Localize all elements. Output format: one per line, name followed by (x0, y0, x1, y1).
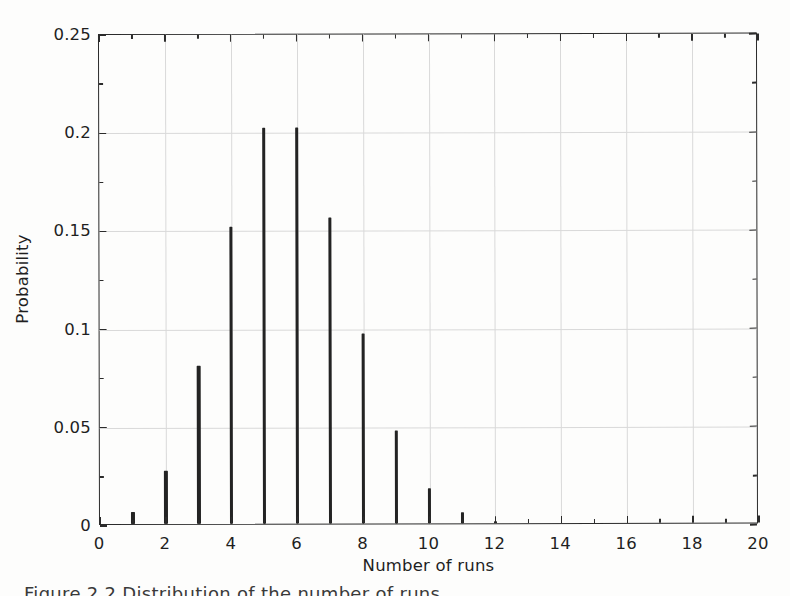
y-tick-minor (99, 83, 103, 84)
probability-distribution-figure: Probability Number of runs Figure 2.2 Di… (0, 0, 790, 596)
stem-bar (361, 334, 365, 524)
x-tick-minor-top (395, 34, 396, 38)
y-tick-major-right (750, 426, 757, 427)
figure-caption: Figure 2.2 Distribution of the number of… (24, 583, 440, 596)
x-tick-minor (330, 520, 331, 524)
x-tick-minor (396, 519, 397, 523)
y-tick-minor (99, 182, 103, 183)
x-tick-major (165, 517, 166, 524)
y-tick-label: 0.05 (53, 417, 91, 436)
y-tick-major-right (750, 524, 757, 525)
y-axis-label: Probability (13, 234, 32, 323)
x-tick-major-top (494, 34, 495, 41)
x-tick-major-top (691, 34, 692, 41)
x-tick-major (363, 516, 364, 523)
gridline-horizontal (99, 132, 756, 134)
x-tick-label: 16 (615, 534, 636, 553)
y-tick-major-right (749, 131, 756, 132)
y-tick-label: 0.2 (64, 123, 91, 142)
y-tick-minor-right (753, 475, 757, 476)
plot-frame (98, 33, 758, 525)
y-tick-minor (100, 378, 104, 379)
x-tick-label: 8 (357, 534, 368, 553)
stem-bar (328, 217, 332, 523)
y-tick-major-right (749, 33, 756, 34)
x-tick-label: 0 (94, 534, 105, 553)
gridline-vertical (494, 34, 496, 523)
y-tick-major (100, 329, 107, 330)
x-tick-label: 12 (484, 534, 505, 553)
y-tick-minor (100, 476, 104, 477)
x-tick-minor (264, 520, 265, 524)
y-tick-major-right (750, 328, 757, 329)
y-tick-major (100, 427, 107, 428)
y-tick-label: 0.15 (53, 221, 91, 240)
x-tick-minor-top (197, 35, 198, 39)
gridline-horizontal (100, 328, 757, 330)
y-tick-major (99, 231, 106, 232)
y-tick-major-right (749, 229, 756, 230)
x-tick-minor (725, 519, 726, 523)
x-tick-major-top (428, 34, 429, 41)
y-tick-major (100, 525, 107, 526)
x-tick-minor (462, 519, 463, 523)
plot-area (99, 34, 757, 524)
x-tick-major (561, 516, 562, 523)
x-tick-major (495, 516, 496, 523)
x-tick-minor (528, 519, 529, 523)
stem-bar (295, 128, 299, 524)
x-tick-major-top (296, 35, 297, 42)
x-tick-major-top (757, 34, 758, 41)
gridline-vertical (560, 34, 562, 523)
x-tick-major (99, 517, 100, 524)
x-tick-minor-top (724, 34, 725, 38)
x-tick-minor-top (593, 34, 594, 38)
gridline-vertical (165, 35, 167, 524)
x-tick-label: 14 (550, 534, 571, 553)
x-tick-major-top (98, 35, 99, 42)
y-tick-major (99, 132, 106, 133)
y-tick-minor (99, 280, 103, 281)
x-tick-major-top (625, 34, 626, 41)
x-tick-major (429, 516, 430, 523)
x-tick-major (297, 517, 298, 524)
x-tick-major (692, 516, 693, 523)
y-tick-label: 0.25 (53, 25, 91, 44)
x-tick-minor-top (527, 34, 528, 38)
x-tick-minor (132, 520, 133, 524)
x-tick-minor-top (658, 34, 659, 38)
x-tick-minor (198, 520, 199, 524)
y-tick-label: 0 (80, 516, 91, 535)
x-tick-minor (659, 519, 660, 523)
stem-bar (262, 128, 266, 524)
x-axis-label: Number of runs (99, 556, 758, 575)
y-tick-minor-right (752, 180, 756, 181)
gridline-vertical (428, 34, 430, 523)
x-tick-minor-top (263, 35, 264, 39)
y-tick-minor-right (752, 278, 756, 279)
x-tick-major (758, 516, 759, 523)
x-tick-major-top (362, 34, 363, 41)
gridline-vertical (626, 34, 628, 523)
x-tick-major (626, 516, 627, 523)
x-tick-minor-top (329, 35, 330, 39)
x-tick-label: 4 (225, 534, 236, 553)
y-tick-minor-right (753, 377, 757, 378)
x-tick-major (231, 517, 232, 524)
x-tick-label: 18 (681, 534, 702, 553)
x-tick-label: 20 (747, 534, 768, 553)
x-tick-label: 2 (160, 534, 171, 553)
x-tick-label: 10 (418, 534, 439, 553)
gridline-vertical (692, 34, 694, 523)
x-tick-minor-top (461, 34, 462, 38)
stem-bar (197, 366, 201, 524)
x-tick-label: 6 (291, 534, 302, 553)
y-tick-major (99, 34, 106, 35)
stem-bar (229, 227, 233, 524)
x-tick-minor-top (131, 35, 132, 39)
x-tick-major-top (560, 34, 561, 41)
gridline-horizontal (99, 230, 756, 232)
x-tick-major-top (230, 35, 231, 42)
x-tick-minor (594, 519, 595, 523)
y-tick-minor-right (752, 82, 756, 83)
